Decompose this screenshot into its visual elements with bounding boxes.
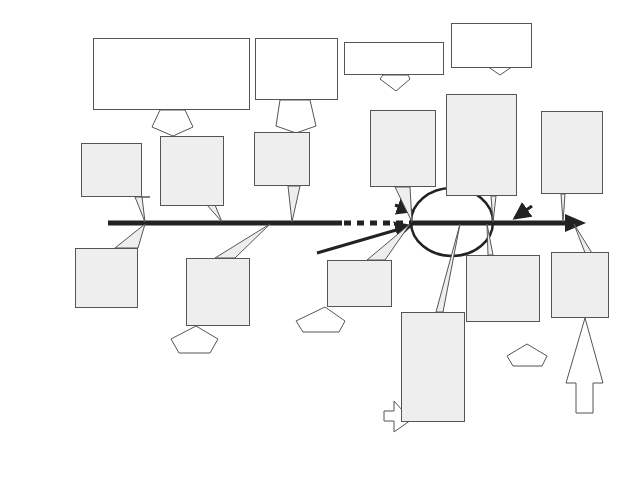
note-fax-dra — [255, 38, 338, 100]
step-receive-reqn-response — [254, 132, 310, 186]
note-draft-deed — [93, 38, 250, 110]
note-send-early — [344, 42, 444, 75]
step-purchaser-confirm-satisfaction — [541, 111, 603, 194]
step-vendor-lawyer-receives — [401, 312, 465, 422]
step-send-closing-documents — [327, 260, 392, 307]
step-full-searches — [160, 136, 224, 206]
step-receive-requisition — [186, 258, 250, 326]
step-vendor-releases-funds — [466, 255, 540, 322]
step-preliminary-due-diligence — [81, 143, 142, 197]
note-sub-search — [451, 23, 532, 68]
step-vendor-confirm-satisfaction — [551, 252, 609, 318]
step-purchaser-registers — [446, 94, 517, 196]
step-purchaser-sends-funds — [370, 110, 436, 187]
step-preliminary-intake — [75, 248, 138, 308]
